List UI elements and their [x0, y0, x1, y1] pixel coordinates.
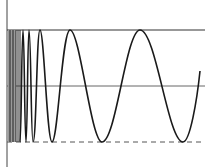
dense-oscillation-region	[8, 30, 16, 142]
oscillation-diagram	[0, 0, 211, 167]
diagram	[0, 0, 211, 167]
